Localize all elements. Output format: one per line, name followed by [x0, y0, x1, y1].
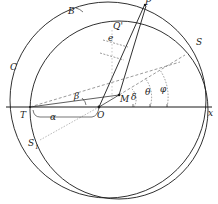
point-O: [98, 106, 101, 109]
label-C: C: [10, 62, 17, 72]
inner-circle: [30, 21, 208, 199]
line-M-P: [119, 6, 146, 95]
dashed-T-ray: [30, 62, 180, 107]
arc-B-marker: [76, 8, 83, 12]
label-delta: δ: [131, 92, 136, 102]
label-alpha: α: [50, 112, 56, 122]
label-P: P: [144, 0, 152, 7]
geometry-diagram: B C S P Q' e β α M δ θ φ O T x S 1: [0, 0, 218, 204]
label-Q-prime: Q': [113, 21, 123, 31]
angle-arc-alpha: [33, 107, 99, 117]
label-e: e: [108, 33, 113, 43]
label-x: x: [208, 108, 213, 118]
label-T: T: [20, 110, 27, 120]
label-S1-subscript: 1: [35, 143, 39, 150]
outer-circle: [10, 2, 206, 198]
label-phi: φ: [160, 84, 167, 94]
label-B: B: [67, 6, 75, 16]
label-S: S: [196, 37, 202, 47]
dashed-O-S1: [40, 107, 99, 140]
label-O: O: [97, 110, 105, 120]
point-T: [29, 106, 31, 108]
label-S1: S: [28, 138, 34, 148]
dashed-e-marker: [103, 40, 128, 47]
label-beta: β: [73, 91, 79, 101]
label-M: M: [119, 94, 130, 104]
angle-arc-beta: [82, 98, 86, 105]
line-O-P: [99, 4, 145, 107]
label-theta: θ: [145, 87, 151, 97]
